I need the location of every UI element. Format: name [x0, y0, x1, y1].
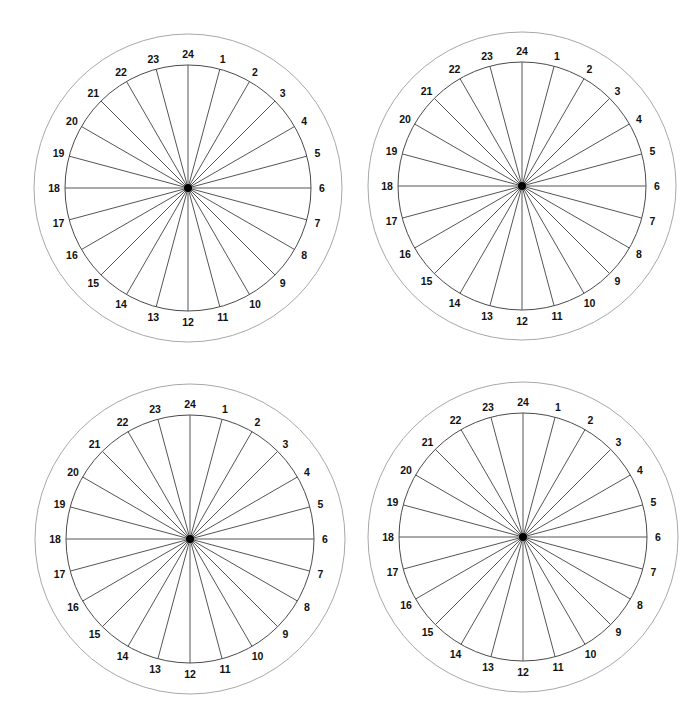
spoke	[523, 537, 555, 657]
hour-label: 19	[387, 496, 399, 508]
spoke	[188, 69, 220, 188]
spoke	[403, 537, 523, 569]
hour-label: 18	[382, 531, 394, 543]
hour-label: 9	[616, 626, 622, 638]
hour-label: 21	[422, 436, 434, 448]
spoke	[402, 186, 522, 218]
hour-label: 15	[421, 275, 433, 287]
hour-label: 10	[252, 650, 264, 662]
spoke	[156, 188, 188, 307]
spoke	[127, 81, 189, 188]
hour-label: 8	[636, 248, 642, 260]
hour-label: 1	[554, 50, 560, 62]
hour-label: 24	[184, 398, 196, 410]
hour-label: 12	[184, 668, 196, 680]
spoke	[461, 430, 523, 537]
wheel-bottom-right: 123456789101112131415161718192021222324	[368, 382, 678, 692]
spoke	[490, 186, 522, 306]
hour-label: 19	[53, 147, 65, 159]
spoke	[156, 69, 188, 188]
hour-label: 22	[450, 414, 462, 426]
spoke	[70, 507, 190, 539]
hour-label: 10	[584, 297, 596, 309]
spoke	[522, 186, 629, 248]
clock-wheel-sheet: 1234567891011121314151617181920212223241…	[0, 0, 685, 717]
hour-label: 11	[552, 661, 563, 673]
spoke	[523, 449, 611, 537]
spoke	[523, 505, 643, 537]
spoke	[522, 186, 554, 306]
spoke	[460, 186, 522, 293]
hour-label: 19	[386, 145, 398, 157]
spoke	[81, 188, 188, 250]
hour-label: 5	[317, 498, 323, 510]
spoke	[416, 537, 523, 599]
hour-label: 15	[89, 628, 101, 640]
spoke	[523, 417, 555, 537]
hour-label: 10	[249, 298, 261, 310]
spoke	[128, 432, 190, 539]
spoke	[523, 537, 611, 625]
hour-label: 20	[66, 115, 78, 127]
hour-label: 14	[115, 298, 127, 310]
center-hub	[519, 533, 527, 541]
hour-label: 13	[482, 661, 494, 673]
hour-label: 5	[650, 496, 656, 508]
hour-label: 18	[48, 182, 60, 194]
spoke	[190, 477, 297, 539]
hour-label: 3	[283, 438, 289, 450]
spoke	[81, 127, 188, 189]
hour-label: 17	[53, 217, 65, 229]
hour-label: 16	[399, 248, 411, 260]
hour-label: 15	[87, 277, 99, 289]
hour-label: 22	[117, 416, 129, 428]
hour-label: 20	[67, 466, 79, 478]
spoke	[188, 188, 307, 220]
spoke	[190, 539, 222, 659]
center-hub	[186, 535, 194, 543]
hour-label: 20	[399, 113, 411, 125]
spoke	[188, 188, 220, 307]
hour-label: 2	[588, 414, 594, 426]
hour-label: 14	[450, 648, 462, 660]
hour-label: 3	[615, 85, 621, 97]
spoke	[188, 101, 275, 188]
hour-label: 13	[147, 311, 159, 323]
wheel-bottom-left: 123456789101112131415161718192021222324	[35, 384, 345, 694]
spoke	[69, 188, 188, 220]
hour-label: 23	[149, 403, 161, 415]
hour-label: 5	[315, 147, 321, 159]
hour-label: 3	[280, 87, 286, 99]
hour-label: 8	[304, 601, 310, 613]
hour-label: 3	[616, 436, 622, 448]
spoke	[434, 98, 522, 186]
hour-label: 24	[516, 45, 528, 57]
spoke	[435, 537, 523, 625]
hour-label: 4	[304, 466, 310, 478]
hour-label: 22	[115, 66, 127, 78]
hour-label: 21	[89, 438, 101, 450]
hour-label: 6	[322, 533, 328, 545]
spoke	[522, 186, 584, 293]
hour-label: 14	[449, 297, 461, 309]
spoke	[188, 188, 295, 250]
hour-label: 9	[283, 628, 289, 640]
hour-label: 21	[87, 87, 99, 99]
spoke	[523, 430, 585, 537]
hour-label: 23	[481, 50, 493, 62]
hour-label: 8	[637, 599, 643, 611]
spoke	[490, 66, 522, 186]
spoke	[128, 539, 190, 646]
hour-label: 18	[49, 533, 61, 545]
spoke	[491, 417, 523, 537]
spoke	[101, 101, 188, 188]
hour-label: 9	[615, 275, 621, 287]
hour-label: 21	[421, 85, 433, 97]
spoke	[190, 507, 310, 539]
hour-label: 9	[280, 277, 286, 289]
spoke	[522, 186, 642, 218]
hour-label: 7	[317, 568, 323, 580]
spoke	[522, 124, 629, 186]
spoke	[523, 537, 643, 569]
spoke	[102, 539, 190, 627]
